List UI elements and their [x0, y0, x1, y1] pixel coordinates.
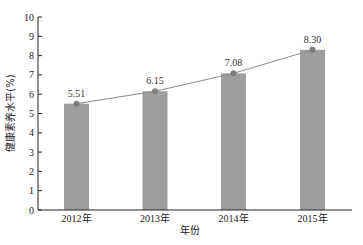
x-axis-tick-labels: 2012年2013年2014年2015年 — [62, 212, 328, 224]
bars — [64, 50, 325, 210]
y-tick-label: 3 — [29, 147, 34, 158]
trend-line — [77, 50, 313, 104]
value-label: 7.08 — [225, 57, 243, 68]
y-tick-label: 9 — [29, 31, 34, 42]
trend-point — [152, 88, 158, 94]
y-tick-label: 1 — [29, 185, 34, 196]
value-label: 6.15 — [146, 75, 164, 86]
value-label: 5.51 — [68, 88, 86, 99]
x-tick-label: 2013年 — [140, 212, 170, 224]
x-tick-label: 2015年 — [298, 212, 328, 224]
y-tick-label: 8 — [29, 50, 34, 61]
y-axis-title: 健康素养水平(%) — [4, 74, 16, 151]
bar — [64, 104, 89, 210]
x-axis-title: 年份 — [180, 224, 200, 236]
y-tick-label: 7 — [29, 69, 34, 80]
value-labels: 5.516.157.088.30 — [68, 34, 322, 99]
x-tick-label: 2014年 — [219, 212, 249, 224]
value-label: 8.30 — [304, 34, 322, 45]
x-tick-label: 2012年 — [62, 212, 92, 224]
y-tick-label: 5 — [29, 108, 34, 119]
y-tick-label: 2 — [29, 166, 34, 177]
y-tick-label: 10 — [24, 12, 34, 23]
y-tick-label: 6 — [29, 89, 34, 100]
y-tick-label: 0 — [29, 205, 34, 216]
bar — [143, 91, 168, 210]
trend-point — [310, 47, 316, 53]
bar-line-chart: 012345678910 5.516.157.088.30 2012年2013年… — [0, 0, 363, 245]
trend-point — [231, 70, 237, 76]
trend-point — [74, 101, 80, 107]
bar — [221, 73, 246, 210]
y-tick-label: 4 — [29, 127, 34, 138]
bar — [300, 50, 325, 210]
trend-points — [74, 47, 316, 107]
y-axis-ticks: 012345678910 — [24, 12, 42, 216]
